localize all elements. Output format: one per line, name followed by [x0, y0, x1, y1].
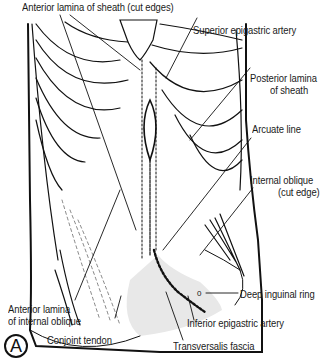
label-transversalis-fascia: Transversalis fascia	[173, 340, 254, 352]
label-posterior-lamina-2: of sheath	[270, 84, 308, 96]
label-arcuate-line: Arcuate line	[252, 123, 301, 135]
svg-text:0: 0	[197, 289, 202, 298]
anatomical-figure: 0 Anterior lamina of sheath (cut edges) …	[0, 0, 331, 361]
label-anterior-lamina-io-2: of internal oblique	[8, 315, 81, 327]
label-internal-oblique-1: Internal oblique	[250, 174, 313, 186]
label-inferior-epigastric-artery: Inferior epigastric artery	[187, 317, 284, 329]
label-posterior-lamina-1: Posterior lamina	[250, 72, 317, 84]
label-deep-inguinal-ring: Deep inguinal ring	[240, 288, 315, 300]
label-anterior-lamina-io-1: Anterior lamina	[8, 303, 70, 315]
label-conjoint-tendon: Conjoint tendon	[47, 334, 112, 346]
panel-letter-badge: A	[4, 334, 28, 358]
label-anterior-lamina-sheath: Anterior lamina of sheath (cut edges)	[22, 1, 174, 13]
label-superior-epigastric-artery: Superior epigastric artery	[193, 24, 296, 36]
label-internal-oblique-2: (cut edge)	[278, 186, 320, 198]
